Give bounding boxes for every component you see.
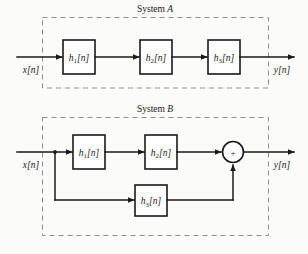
system-b-title-prefix: System bbox=[137, 104, 167, 114]
system-a-title-prefix: System bbox=[137, 4, 167, 14]
block-diagram-figure: System A x[n] h1[n] h2[n] h3[n] bbox=[0, 0, 308, 254]
system-a-h3-bracket: [n] bbox=[222, 53, 234, 63]
system-a-input-label: x[n] bbox=[22, 65, 40, 75]
system-a-output-label: y[n] bbox=[273, 65, 291, 75]
system-b-block-h2-label: h2[n] bbox=[151, 148, 172, 160]
system-a-block-h1-label: h1[n] bbox=[69, 53, 90, 65]
diagram-canvas: System A x[n] h1[n] h2[n] h3[n] bbox=[0, 0, 308, 254]
system-a-h1-bracket: [n] bbox=[77, 53, 89, 63]
system-b-input-label: x[n] bbox=[22, 160, 40, 170]
system-b-title: System B bbox=[137, 104, 173, 114]
system-b-h3-bracket: [n] bbox=[149, 196, 161, 206]
system-a-title-name: A bbox=[166, 4, 173, 14]
system-b-branch-node bbox=[53, 150, 57, 154]
system-a-title: System A bbox=[137, 4, 173, 14]
system-b-h1-bracket: [n] bbox=[87, 148, 99, 158]
system-b-block-h1-label: h1[n] bbox=[79, 148, 100, 160]
system-a-block-h2-label: h2[n] bbox=[146, 53, 167, 65]
system-b-block-h3-label: h3[n] bbox=[141, 196, 162, 208]
system-b-adder-plus-symbol: + bbox=[230, 148, 235, 158]
system-a-block-h3-label: h3[n] bbox=[214, 53, 235, 65]
system-b-h2-bracket: [n] bbox=[159, 148, 171, 158]
system-b-title-name: B bbox=[167, 104, 173, 114]
system-a-h2-bracket: [n] bbox=[154, 53, 166, 63]
system-b-output-label: y[n] bbox=[273, 160, 291, 170]
